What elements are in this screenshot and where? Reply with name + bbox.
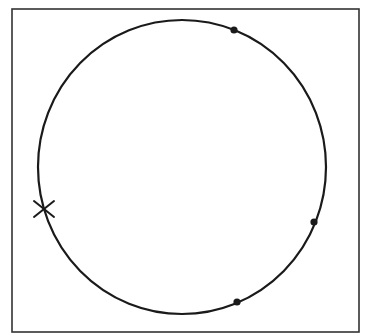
diagram-figure [0,0,369,333]
dot-markers [230,26,317,305]
dot-bottom-icon [233,298,240,305]
dot-right-icon [310,218,317,225]
cross-marker-icon [34,201,54,217]
square-frame [12,9,359,332]
diagram-canvas [0,0,369,333]
closed-circular-curve [38,20,326,314]
dot-top-right-icon [230,26,237,33]
